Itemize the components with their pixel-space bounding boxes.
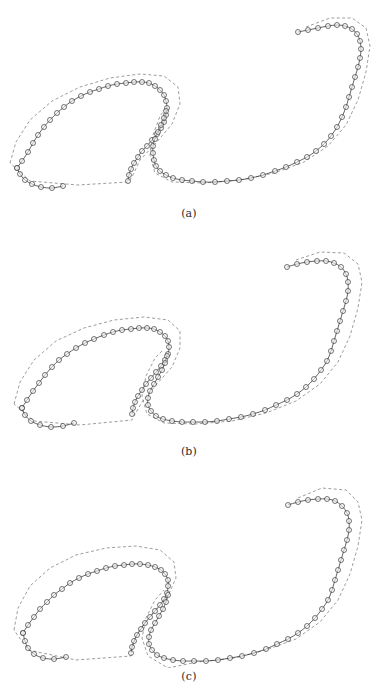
data-point-marker [26, 646, 31, 651]
data-point-marker [23, 413, 28, 418]
data-point-marker [104, 566, 109, 571]
data-point-marker [152, 158, 157, 163]
data-point-marker [136, 394, 141, 399]
data-point-marker [20, 159, 25, 164]
data-point-marker [126, 179, 131, 184]
data-point-marker [147, 81, 152, 86]
data-point-marker [154, 164, 159, 169]
data-point-marker [159, 568, 164, 573]
data-point-marker [147, 642, 152, 647]
data-point-marker [42, 125, 47, 130]
data-point-marker [346, 280, 351, 285]
data-point-marker [48, 118, 53, 123]
panel-c: (c) [0, 478, 378, 700]
data-point-marker [145, 326, 150, 331]
data-point-marker [151, 144, 156, 149]
data-point-marker [353, 75, 358, 80]
data-point-marker [135, 633, 140, 638]
data-point-marker [181, 659, 186, 664]
data-point-marker [130, 645, 135, 650]
data-point-marker [72, 421, 77, 426]
data-point-marker [213, 180, 218, 185]
right-control-polygon [142, 488, 362, 668]
data-point-marker [164, 109, 169, 114]
data-point-marker [145, 144, 150, 149]
data-point-marker [332, 339, 337, 344]
figure-container: (a) (b) (c) [0, 0, 378, 700]
data-point-marker [347, 528, 352, 533]
data-point-marker [313, 616, 318, 621]
data-point-marker [341, 309, 346, 314]
data-point-marker [338, 319, 343, 324]
data-point-marker [106, 84, 111, 89]
data-point-marker [275, 642, 280, 647]
data-point-marker [359, 47, 364, 52]
data-point-marker [166, 593, 171, 598]
data-point-marker [148, 389, 153, 394]
data-point-marker [43, 373, 48, 378]
data-point-marker [326, 598, 331, 603]
data-point-marker [95, 569, 100, 574]
data-point-marker [335, 125, 340, 130]
data-point-marker [57, 358, 62, 363]
panel-b: (b) [0, 238, 378, 478]
data-point-marker [122, 563, 127, 568]
data-point-marker [136, 155, 141, 160]
data-point-marker [264, 647, 269, 652]
data-point-marker [180, 420, 185, 425]
data-point-marker [140, 80, 145, 85]
right-control-polygon [150, 18, 370, 183]
data-point-marker [336, 568, 341, 573]
data-point-marker [203, 420, 208, 425]
data-point-marker [153, 565, 158, 570]
data-point-marker [164, 99, 169, 104]
data-point-marker [132, 161, 137, 166]
data-point-marker [356, 65, 361, 70]
data-point-marker [344, 272, 349, 277]
data-point-marker [339, 265, 344, 270]
data-point-marker [339, 558, 344, 563]
data-point-marker [165, 354, 170, 359]
data-point-marker [171, 176, 176, 181]
data-point-marker [131, 406, 136, 411]
data-point-marker [133, 400, 138, 405]
data-point-marker [345, 511, 350, 516]
data-point-marker [350, 85, 355, 90]
data-point-marker [158, 330, 163, 335]
right-control-polygon [142, 252, 362, 424]
data-point-marker [201, 180, 206, 185]
data-point-marker [23, 639, 28, 644]
data-point-marker [316, 497, 321, 502]
data-point-marker [237, 178, 242, 183]
data-point-marker [146, 403, 151, 408]
data-point-marker [26, 150, 31, 155]
data-point-marker [18, 172, 23, 177]
panel-a-plot [0, 0, 378, 205]
data-point-marker [102, 333, 107, 338]
data-point-marker [295, 160, 300, 165]
panel-c-plot [0, 478, 378, 668]
data-point-marker [83, 341, 88, 346]
data-point-marker [162, 656, 167, 661]
data-point-marker [295, 392, 300, 397]
data-point-marker [295, 262, 300, 267]
data-point-marker [344, 299, 349, 304]
data-point-marker [143, 621, 148, 626]
data-point-marker [61, 184, 66, 189]
data-point-marker [132, 639, 137, 644]
data-point-marker [150, 648, 155, 653]
data-point-marker [296, 631, 301, 636]
data-point-marker [285, 398, 290, 403]
data-point-marker [52, 593, 57, 598]
data-point-marker [55, 111, 60, 116]
data-point-marker [191, 420, 196, 425]
data-point-marker [154, 370, 159, 375]
data-point-marker [332, 261, 337, 266]
data-point-marker [32, 615, 37, 620]
data-point-marker [346, 289, 351, 294]
data-point-marker [127, 173, 132, 178]
data-point-marker [164, 600, 169, 605]
data-point-marker [312, 377, 317, 382]
data-point-marker [163, 572, 168, 577]
data-point-marker [60, 587, 65, 592]
